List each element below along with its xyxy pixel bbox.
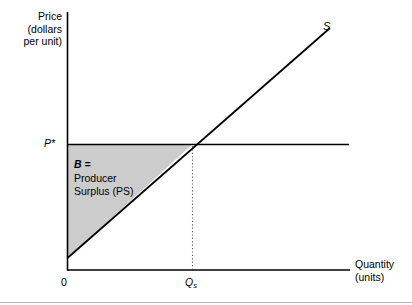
- producer-surplus-annotation: B =ProducerSurplus (PS): [74, 158, 134, 199]
- quantity-tick-letter: Q: [185, 276, 193, 288]
- origin-label: 0: [61, 276, 67, 289]
- bottom-divider: [0, 302, 412, 303]
- region-label-b: B =: [74, 158, 91, 170]
- y-axis-title: Price (dollars per unit): [14, 10, 62, 48]
- quantity-tick-subscript: s: [193, 281, 197, 290]
- price-tick-label: P*: [44, 137, 55, 150]
- x-axis-title: Quantity (units): [355, 258, 411, 283]
- supply-curve-line: [68, 28, 331, 258]
- region-label-surplus: Surplus (PS): [74, 185, 134, 197]
- quantity-tick-label: Qs: [185, 276, 197, 293]
- supply-curve-label: S: [323, 20, 330, 33]
- producer-surplus-figure: Price (dollars per unit) Quantity (units…: [0, 0, 412, 305]
- region-label-producer: Producer: [74, 172, 117, 184]
